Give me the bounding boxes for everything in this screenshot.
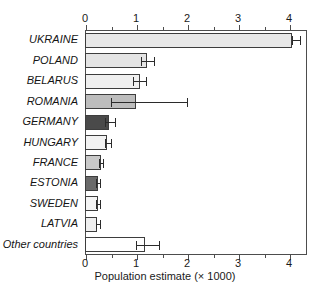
x-tick-minor: [163, 27, 164, 30]
error-bar-cap: [100, 179, 101, 188]
error-bar-line: [133, 81, 146, 82]
x-tick-minor: [214, 255, 215, 258]
error-bar-cap: [100, 220, 101, 229]
category-label: POLAND: [33, 54, 78, 66]
category-label: ESTONIA: [30, 176, 78, 188]
category-label: Other countries: [3, 238, 78, 250]
error-bar-cap: [111, 98, 112, 107]
error-bar-cap: [103, 159, 104, 168]
x-ticklabel: 3: [235, 12, 241, 24]
x-tick-major: [290, 25, 291, 30]
x-tick-minor: [112, 255, 113, 258]
bar: [85, 135, 107, 150]
x-tick-minor: [265, 27, 266, 30]
x-tick-minor: [214, 27, 215, 30]
error-bar-line: [111, 102, 188, 103]
bar: [85, 53, 147, 68]
error-bar-cap: [159, 241, 160, 250]
error-bar-cap: [300, 36, 301, 45]
x-tick-minor: [163, 255, 164, 258]
error-bar-cap: [96, 179, 97, 188]
x-tick-major: [188, 25, 189, 30]
error-bar-cap: [141, 57, 142, 66]
error-bar-cap: [154, 57, 155, 66]
category-label: LATVIA: [41, 217, 78, 229]
population-bar-chart: 01234 01234 UKRAINEPOLANDBELARUSROMANIAG…: [0, 0, 330, 288]
error-bar-cap: [146, 77, 147, 86]
error-bar-cap: [96, 200, 97, 209]
error-bar-cap: [187, 98, 188, 107]
x-ticklabel: 0: [82, 257, 88, 269]
error-bar-line: [136, 245, 159, 246]
x-ticklabel: 1: [133, 257, 139, 269]
x-ticklabel: 1: [133, 12, 139, 24]
x-ticklabel: 2: [184, 12, 190, 24]
error-bar-cap: [99, 159, 100, 168]
error-bar-line: [105, 122, 114, 123]
x-ticklabel: 0: [82, 12, 88, 24]
x-ticklabel: 3: [235, 257, 241, 269]
x-axis-title: Population estimate (× 1000): [0, 270, 330, 282]
error-bar-cap: [105, 118, 106, 127]
category-label: ROMANIA: [27, 95, 78, 107]
x-ticklabel: 2: [184, 257, 190, 269]
x-ticklabel: 4: [286, 257, 292, 269]
x-tick-major: [86, 25, 87, 30]
category-label: SWEDEN: [30, 197, 78, 209]
category-label: FRANCE: [33, 156, 78, 168]
bar: [85, 74, 140, 89]
error-bar-line: [292, 40, 301, 41]
x-tick-major: [137, 25, 138, 30]
error-bar-cap: [96, 220, 97, 229]
error-bar-line: [141, 61, 154, 62]
category-label: BELARUS: [27, 74, 78, 86]
x-tick-minor: [112, 27, 113, 30]
category-label: UKRAINE: [29, 33, 78, 45]
error-bar-cap: [111, 139, 112, 148]
error-bar-cap: [292, 36, 293, 45]
category-label: HUNGARY: [23, 136, 78, 148]
x-tick-major: [239, 25, 240, 30]
error-bar-cap: [105, 139, 106, 148]
bar: [85, 33, 292, 48]
error-bar-cap: [115, 118, 116, 127]
error-bar-cap: [133, 77, 134, 86]
category-label: GERMANY: [22, 115, 78, 127]
error-bar-cap: [136, 241, 137, 250]
x-tick-minor: [265, 255, 266, 258]
x-ticklabel: 4: [286, 12, 292, 24]
error-bar-cap: [100, 200, 101, 209]
